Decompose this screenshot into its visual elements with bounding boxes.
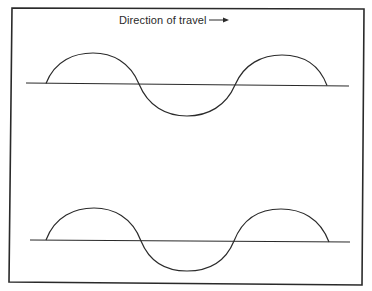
top-wave [26, 53, 349, 116]
top-wave-axis [26, 83, 349, 86]
bottom-wave-curve [46, 208, 329, 271]
bottom-wave [30, 208, 350, 271]
diagram-frame [9, 8, 364, 285]
direction-of-travel-label: Direction of travel [119, 14, 207, 26]
bottom-wave-axis [30, 240, 350, 242]
wave-diagram: Direction of travel [0, 0, 372, 291]
diagram-canvas [0, 0, 372, 291]
right-arrow-icon [209, 18, 229, 23]
